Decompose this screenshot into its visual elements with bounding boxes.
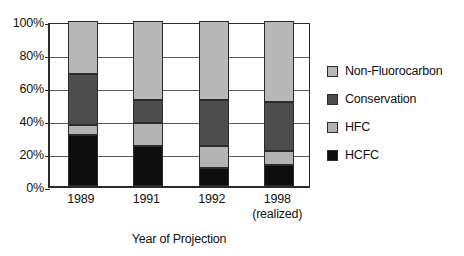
bar-segment-conservation	[133, 100, 163, 123]
legend-item-hcfc[interactable]: HCFC	[327, 148, 459, 163]
x-axis-tick-year: 1998	[264, 192, 291, 206]
y-axis-tick-mark	[45, 189, 50, 190]
bar-segment-hfc	[199, 146, 229, 167]
bar-segment-hcfc	[68, 135, 98, 186]
legend-swatch-icon	[327, 66, 338, 77]
x-axis-tick-sublabel: (realized)	[245, 207, 311, 222]
x-axis-tick-label: 1998(realized)	[245, 192, 311, 222]
chart-legend: Non-FluorocarbonConservationHFCHCFC	[327, 64, 459, 176]
bar-segment-conservation	[68, 74, 98, 125]
x-axis-tick-label: 1989	[48, 192, 114, 207]
bar-1989	[68, 21, 98, 186]
bar-1992	[199, 21, 229, 186]
bar-segment-hfc	[68, 125, 98, 135]
x-axis-tick-year: 1989	[67, 192, 94, 206]
bar-1991	[133, 21, 163, 186]
y-axis-tick-label: 0%	[4, 182, 44, 194]
bar-segment-hfc	[133, 123, 163, 146]
x-axis-tick-year: 1991	[133, 192, 160, 206]
bar-segment-non-fluorocarbon	[199, 21, 229, 100]
y-axis-labels: 0%20%40%60%80%100%	[4, 0, 44, 256]
y-axis-tick-label: 80%	[4, 50, 44, 62]
x-axis-tick-label: 1991	[114, 192, 180, 207]
bar-segment-hcfc	[199, 168, 229, 186]
bar-segment-non-fluorocarbon	[68, 21, 98, 74]
y-axis-tick-label: 40%	[4, 116, 44, 128]
bar-segment-hfc	[264, 151, 294, 164]
bar-segment-non-fluorocarbon	[264, 21, 294, 102]
bars-layer	[50, 24, 309, 186]
bar-1998	[264, 21, 294, 186]
legend-item-non-fluorocarbon[interactable]: Non-Fluorocarbon	[327, 64, 459, 79]
bar-segment-hcfc	[264, 165, 294, 186]
y-axis-tick-label: 60%	[4, 83, 44, 95]
legend-label: Conservation	[345, 93, 416, 106]
legend-label: HCFC	[345, 149, 379, 162]
x-axis-title: Year of Projection	[48, 232, 310, 246]
y-axis-tick-label: 100%	[4, 17, 44, 29]
legend-item-conservation[interactable]: Conservation	[327, 92, 459, 107]
legend-label: HFC	[345, 121, 370, 134]
x-axis-tick-year: 1992	[198, 192, 225, 206]
legend-item-hfc[interactable]: HFC	[327, 120, 459, 135]
bar-segment-conservation	[264, 102, 294, 152]
plot-area	[48, 23, 310, 188]
legend-label: Non-Fluorocarbon	[345, 65, 443, 78]
legend-swatch-icon	[327, 122, 338, 133]
y-axis-tick-label: 20%	[4, 149, 44, 161]
legend-swatch-icon	[327, 150, 338, 161]
x-axis-labels: 1989199119921998(realized)	[48, 192, 310, 226]
bar-segment-non-fluorocarbon	[133, 21, 163, 100]
stacked-bar-chart: 0%20%40%60%80%100% 1989199119921998(real…	[0, 0, 464, 256]
x-axis-tick-label: 1992	[179, 192, 245, 207]
bar-segment-hcfc	[133, 146, 163, 186]
bar-segment-conservation	[199, 100, 229, 146]
legend-swatch-icon	[327, 94, 338, 105]
